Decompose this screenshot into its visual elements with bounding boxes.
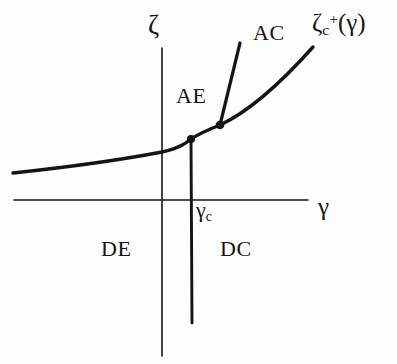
critical-curve xyxy=(13,47,313,173)
y-axis-label: ζ xyxy=(148,12,159,39)
ac-branch-line xyxy=(220,43,240,125)
gamma-c-subscript: c xyxy=(206,209,212,224)
x-axis-label: γ xyxy=(318,194,329,219)
gamma-c-label: γc xyxy=(196,199,212,223)
curve-label-superscript: + xyxy=(329,10,338,27)
curve-label-zeta: ζ xyxy=(312,9,322,36)
region-label-ae: AE xyxy=(176,85,206,107)
region-label-ac: AC xyxy=(253,22,285,44)
gamma-c-symbol: γ xyxy=(196,197,206,222)
diagram-canvas xyxy=(0,0,397,364)
region-label-dc: DC xyxy=(220,238,252,260)
upper-kink-point xyxy=(216,121,225,130)
region-label-de: DE xyxy=(101,238,131,260)
lower-kink-point xyxy=(187,135,195,143)
phase-diagram-figure: ζ γ ζc+(γ) γc AE AC DE DC xyxy=(0,0,397,364)
critical-curve-label: ζc+(γ) xyxy=(312,10,366,38)
gamma-c-vertical-line xyxy=(191,139,192,323)
curve-label-argument: (γ) xyxy=(338,9,366,36)
